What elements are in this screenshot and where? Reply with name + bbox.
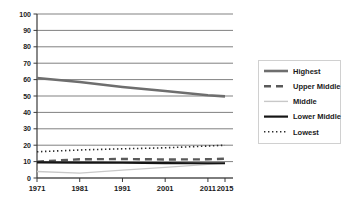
y-tick-label: 0 [27, 175, 31, 182]
y-tick-label: 20 [23, 142, 31, 149]
legend-label-middle: Middle [293, 97, 317, 106]
y-tick-label: 60 [23, 76, 31, 83]
x-tick-label: 1981 [71, 184, 88, 193]
y-tick-label: 30 [23, 125, 31, 132]
y-tick-label: 80 [23, 43, 31, 50]
y-tick-label: 70 [23, 60, 31, 67]
x-tick-label: 1971 [29, 184, 46, 193]
y-tick-label: 10 [23, 158, 31, 165]
chart-canvas: 0102030405060708090100 19711981199120012… [0, 0, 353, 211]
legend-label-upper-middle: Upper Middle [293, 82, 341, 91]
y-tick-label: 90 [23, 27, 31, 34]
legend-label-highest: Highest [293, 67, 321, 76]
line-chart: 0102030405060708090100 19711981199120012… [0, 0, 353, 211]
x-tick-label: 1991 [114, 184, 131, 193]
x-tick-label: 2011 [200, 184, 216, 193]
x-tick-label: 2001 [157, 184, 174, 193]
legend-label-lower-middle: Lower Middle [293, 112, 341, 121]
y-tick-label: 50 [23, 93, 31, 100]
legend-label-lowest: Lowest [293, 128, 319, 137]
y-tick-label: 100 [19, 11, 31, 18]
x-tick-label: 2015 [217, 184, 234, 193]
y-tick-label: 40 [23, 109, 31, 116]
series-line-lower-middle [37, 162, 225, 163]
